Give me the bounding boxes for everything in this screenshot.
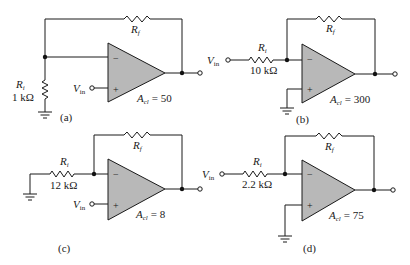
gain-label: Acl= 75: [328, 209, 364, 223]
output-terminal: [391, 188, 395, 192]
junction-node: [285, 58, 289, 62]
ground-icon: [38, 112, 52, 118]
vin-terminal: [220, 172, 224, 176]
output-terminal: [198, 187, 202, 191]
ground-icon: [278, 236, 292, 242]
ground-wire: [285, 205, 302, 236]
ground-wire: [287, 89, 302, 108]
circuit-d: − + Rf Ri 2.2 kΩ Vin Acl= 75 (d): [202, 133, 395, 255]
circuit-a: − + Rf Ri 1 kΩ Vin Acl= 50 (a): [12, 16, 202, 124]
output-terminal: [393, 72, 397, 76]
minus-sign: −: [307, 169, 313, 180]
ri-value: 1 kΩ: [12, 91, 34, 103]
caption: (b): [296, 113, 309, 126]
plus-sign: +: [307, 200, 313, 211]
ri-label: Ri: [252, 155, 262, 169]
ri-value: 12 kΩ: [50, 179, 77, 191]
feedback-wire: [150, 135, 182, 189]
ri-label: Ri: [15, 78, 25, 92]
rf-resistor: [316, 133, 342, 139]
output-node: [180, 187, 184, 191]
circuit-b: − + Rf Ri 10 kΩ Vin Acl= 300 (b): [207, 16, 397, 126]
vin-label: Vin: [73, 198, 86, 212]
plus-sign: +: [307, 84, 313, 95]
rf-label: Rf: [130, 23, 141, 37]
gain-label: Acl= 50: [136, 92, 172, 106]
vin-terminal: [226, 58, 230, 62]
caption: (d): [303, 242, 316, 255]
minus-sign: −: [113, 53, 119, 64]
minus-sign: −: [307, 54, 313, 65]
ri-resistor: [230, 57, 302, 63]
ri-value: 10 kΩ: [250, 64, 277, 76]
plus-sign: +: [113, 84, 119, 95]
circuit-c: − + Rf Ri 12 kΩ Vin Acl= 8 (c): [23, 132, 202, 255]
op-amp-figure: − + Rf Ri 1 kΩ Vin Acl= 50 (a) − +: [0, 0, 410, 265]
vin-label: Vin: [207, 54, 220, 68]
feedback-wire: [342, 136, 374, 190]
ground-icon: [23, 194, 37, 200]
rf-resistor: [124, 132, 150, 138]
plus-sign: +: [113, 200, 119, 211]
gain-label: Acl= 8: [135, 208, 166, 222]
caption: (c): [58, 242, 71, 255]
ri-resistor: [224, 171, 302, 177]
output-terminal: [198, 71, 202, 75]
feedback-wire: [150, 19, 182, 73]
feedback-wire: [342, 19, 375, 74]
vin-terminal: [90, 86, 94, 90]
ri-label: Ri: [59, 155, 69, 169]
ri-label: Ri: [257, 41, 267, 55]
gain-label: Acl= 300: [329, 93, 371, 107]
ri-value: 2.2 kΩ: [242, 178, 272, 190]
junction-node: [92, 172, 96, 176]
rf-label: Rf: [324, 140, 335, 154]
caption: (a): [60, 111, 73, 124]
ri-resistor: [42, 57, 48, 112]
vin-terminal: [90, 202, 94, 206]
ground-icon: [280, 108, 294, 114]
rf-label: Rf: [325, 22, 336, 36]
output-node: [373, 72, 377, 76]
rf-resistor: [124, 16, 150, 22]
minus-sign: −: [113, 169, 119, 180]
rf-label: Rf: [132, 139, 143, 153]
vin-label: Vin: [202, 168, 215, 182]
output-node: [372, 188, 376, 192]
vin-label: Vin: [73, 82, 86, 96]
output-node: [180, 71, 184, 75]
junction-node: [283, 172, 287, 176]
